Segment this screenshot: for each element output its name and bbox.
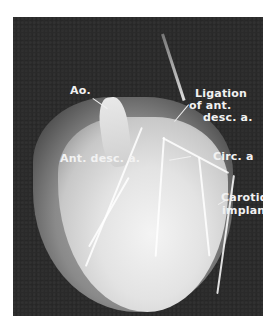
label-ligation-3: desc. a. <box>203 112 253 123</box>
catheter-line <box>161 34 185 102</box>
label-carotid-1: Carotid <box>221 192 263 203</box>
label-ligation-2: of ant. <box>189 100 231 111</box>
label-ant-desc: Ant. desc. a. <box>60 153 140 164</box>
label-ligation-1: Ligation <box>195 88 247 99</box>
label-aorta: Ao. <box>70 85 91 96</box>
radiograph-image: Ao. Ligation of ant. desc. a. Ant. desc.… <box>13 17 263 316</box>
label-carotid-2: implant <box>222 205 263 216</box>
label-circ: Circ. a <box>213 151 254 162</box>
